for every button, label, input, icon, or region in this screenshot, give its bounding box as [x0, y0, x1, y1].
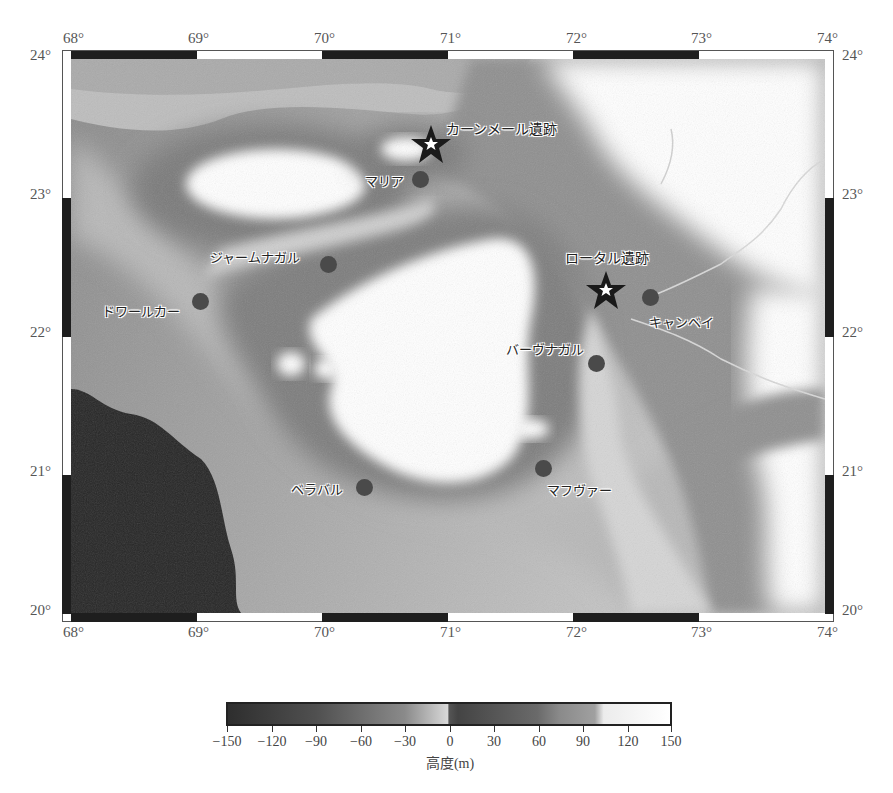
colorbar-tick — [227, 726, 228, 732]
colorbar-tick — [494, 726, 495, 732]
colorbar-label: −30 — [394, 734, 416, 750]
colorbar-title: 高度(m) — [426, 752, 474, 772]
town-label-dwarka: ドワールカー — [102, 301, 180, 320]
lat-label-left-21: 21° — [30, 463, 51, 480]
colorbar-label: −90 — [305, 734, 327, 750]
town-label-khambhat: キャンベイ — [649, 312, 714, 331]
frame-bar-bottom-3 — [573, 613, 699, 622]
town-dot-jamnagar — [320, 256, 337, 273]
colorbar-label: 60 — [532, 734, 546, 750]
colorbar-gradient — [226, 702, 672, 726]
colorbar-label: −150 — [213, 734, 242, 750]
frame-bar-bottom-1 — [71, 613, 197, 622]
lat-label-left-23: 23° — [30, 186, 51, 203]
colorbar-tick — [628, 726, 629, 732]
town-dot-mahuva — [535, 460, 552, 477]
frame-bar-right-2 — [825, 475, 834, 614]
colorbar-label: −120 — [258, 734, 287, 750]
lon-label-bottom-68: 68° — [63, 624, 84, 641]
lon-label-bottom-74: 74° — [817, 624, 838, 641]
lat-label-right-20: 20° — [842, 602, 863, 619]
colorbar: −150 −120 −90 −60 −30 0 30 60 90 120 150… — [226, 702, 674, 772]
lat-label-right-21: 21° — [842, 463, 863, 480]
town-label-mahuva: マフヴァー — [547, 480, 612, 499]
colorbar-label: 150 — [661, 734, 682, 750]
lon-label-top-72: 72° — [566, 30, 587, 47]
lat-label-left-24: 24° — [30, 47, 51, 64]
town-label-veraval: ベラバル — [291, 479, 343, 498]
lon-label-top-69: 69° — [188, 30, 209, 47]
lon-label-top-74: 74° — [817, 30, 838, 47]
lon-label-bottom-70: 70° — [314, 624, 335, 641]
colorbar-tick — [405, 726, 406, 732]
lon-label-top-68: 68° — [63, 30, 84, 47]
colorbar-tick — [583, 726, 584, 732]
frame-bar-left-2 — [62, 475, 71, 614]
lat-label-left-20: 20° — [30, 602, 51, 619]
colorbar-tick — [450, 726, 451, 732]
star-icon-lothal — [585, 270, 627, 310]
lat-label-right-22: 22° — [842, 324, 863, 341]
town-dot-khambhat — [642, 289, 659, 306]
colorbar-label: 90 — [576, 734, 590, 750]
lon-label-bottom-71: 71° — [440, 624, 461, 641]
colorbar-label: 120 — [618, 734, 639, 750]
lon-label-bottom-72: 72° — [566, 624, 587, 641]
colorbar-tick — [272, 726, 273, 732]
colorbar-label: −60 — [350, 734, 372, 750]
town-label-jamnagar: ジャームナガル — [210, 247, 300, 266]
colorbar-tick — [361, 726, 362, 732]
frame-bar-left-1 — [62, 198, 71, 337]
town-dot-bhavnagar — [588, 355, 605, 372]
colorbar-label: 30 — [487, 734, 501, 750]
town-label-bhavnagar: バーヴナガル — [506, 339, 584, 358]
town-dot-veraval — [356, 479, 373, 496]
town-label-maliya: マリア — [365, 171, 404, 190]
lat-label-left-22: 22° — [30, 324, 51, 341]
site-label-lothal: ロータル遺跡 — [565, 247, 649, 267]
colorbar-label: 0 — [447, 734, 454, 750]
town-dot-maliya — [412, 171, 429, 188]
lon-label-top-70: 70° — [314, 30, 335, 47]
lon-label-top-73: 73° — [691, 30, 712, 47]
frame-bar-bottom-2 — [322, 613, 448, 622]
lat-label-right-24: 24° — [842, 47, 863, 64]
frame-bar-right-1 — [825, 198, 834, 337]
lat-label-right-23: 23° — [842, 186, 863, 203]
colorbar-tick — [671, 726, 672, 732]
site-label-kanmer: カーンメール遺跡 — [446, 118, 557, 138]
lon-label-top-71: 71° — [440, 30, 461, 47]
map-figure: 68° 69° 70° 71° 72° 73° 74° 68° 69° 70° … — [0, 0, 893, 640]
town-dot-dwarka — [192, 293, 209, 310]
lon-label-bottom-69: 69° — [188, 624, 209, 641]
colorbar-tick — [316, 726, 317, 732]
colorbar-tick — [539, 726, 540, 732]
lon-label-bottom-73: 73° — [691, 624, 712, 641]
